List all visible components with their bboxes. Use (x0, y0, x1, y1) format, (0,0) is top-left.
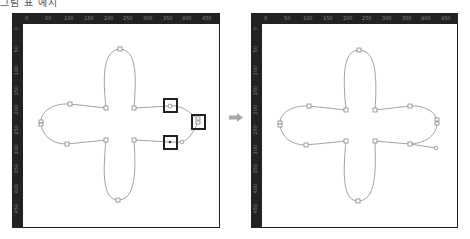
anchor-point[interactable] (132, 138, 136, 142)
anchor-point[interactable] (408, 104, 412, 108)
anchor-point[interactable] (435, 118, 439, 121)
control-handle[interactable] (434, 146, 438, 150)
anchor-point[interactable] (104, 106, 108, 110)
anchor-point[interactable] (65, 142, 69, 146)
anchor-point[interactable] (344, 139, 348, 143)
vector-shapes (0, 0, 470, 239)
anchor-point[interactable] (344, 108, 348, 112)
anchor-point[interactable] (304, 143, 308, 147)
anchor-point[interactable] (373, 108, 377, 112)
anchor-point[interactable] (196, 121, 200, 124)
anchor-point[interactable] (356, 199, 360, 203)
after-path[interactable] (280, 50, 437, 201)
control-handle[interactable] (180, 140, 184, 144)
anchor-point[interactable] (196, 117, 200, 120)
anchor-point[interactable] (39, 123, 43, 126)
anchor-point[interactable] (132, 106, 136, 110)
anchor-point[interactable] (118, 47, 122, 51)
anchor-point[interactable] (278, 124, 282, 127)
anchor-point[interactable] (373, 139, 377, 143)
anchor-point[interactable] (435, 122, 439, 125)
anchor-point[interactable] (68, 102, 72, 106)
anchor-point[interactable] (278, 121, 282, 124)
anchor-point[interactable] (307, 104, 311, 108)
before-path[interactable] (41, 49, 198, 200)
anchor-point[interactable] (168, 104, 172, 108)
anchor-point[interactable] (39, 120, 43, 123)
before-anchor-points (39, 47, 200, 202)
anchor-point[interactable] (116, 198, 120, 202)
after-anchor-points (278, 48, 439, 203)
anchor-point[interactable] (408, 142, 412, 146)
anchor-point[interactable] (104, 138, 108, 142)
anchor-point[interactable] (357, 48, 361, 52)
selected-anchor-point[interactable] (169, 141, 172, 144)
